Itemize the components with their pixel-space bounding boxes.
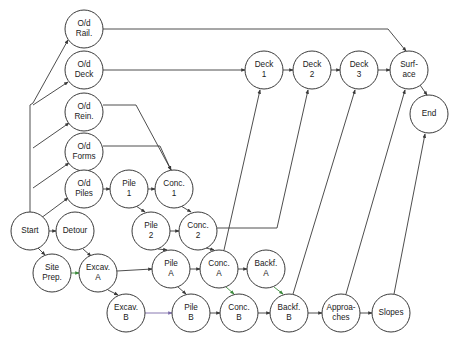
diagram-canvas: StartDetourSitePrep.O/dRail.O/dDeckO/dRe… [0, 0, 462, 342]
edge-conc2-to-deck2 [217, 90, 308, 228]
node-circle-pile2[interactable] [132, 212, 170, 250]
node-circle-odforms[interactable] [65, 133, 103, 171]
node-circle-start[interactable] [11, 212, 49, 250]
node-circle-detour[interactable] [56, 212, 94, 250]
edge-pilea-to-pileb [178, 287, 186, 294]
edge-conca-to-concb [226, 287, 234, 294]
node-excava[interactable]: Excav.A [79, 254, 117, 292]
node-odpiles[interactable]: O/dPiles [65, 170, 103, 208]
edge-conc2-to-conca [206, 248, 214, 250]
node-surface[interactable]: Surf-ace [390, 51, 428, 89]
node-circle-pile1[interactable] [110, 170, 148, 208]
node-deck1[interactable]: Deck1 [245, 51, 283, 89]
node-deck2[interactable]: Deck2 [293, 51, 331, 89]
node-conc2[interactable]: Conc.2 [179, 212, 217, 250]
node-odforms[interactable]: O/dForms [65, 133, 103, 171]
edge-odrein-to-conc1 [103, 105, 171, 170]
edge-start-to-siteprep [38, 248, 45, 255]
node-circle-backfb[interactable] [270, 294, 308, 332]
node-approaches[interactable]: Approa-ches [322, 294, 360, 332]
node-pileb[interactable]: PileB [172, 294, 210, 332]
node-deck3[interactable]: Deck3 [340, 51, 378, 89]
edge-surface-to-end [420, 85, 427, 95]
node-end[interactable]: End [410, 95, 448, 133]
node-siteprep[interactable]: SitePrep. [33, 254, 71, 292]
edge-conca-to-deck1 [224, 90, 260, 250]
node-circle-odpiles[interactable] [65, 170, 103, 208]
node-detour[interactable]: Detour [56, 212, 94, 250]
node-pile2[interactable]: Pile2 [132, 212, 170, 250]
node-odrail[interactable]: O/dRail. [65, 10, 103, 48]
edge-pile2-to-pilea [158, 249, 167, 250]
node-circle-concb[interactable] [220, 294, 258, 332]
node-conc1[interactable]: Conc.1 [155, 170, 193, 208]
node-backfb[interactable]: Backf.B [270, 294, 308, 332]
node-backfa[interactable]: Backf.A [247, 250, 285, 288]
node-circle-pileb[interactable] [172, 294, 210, 332]
node-circle-slopes[interactable] [372, 294, 410, 332]
node-circle-conca[interactable] [200, 250, 238, 288]
node-circle-deck3[interactable] [340, 51, 378, 89]
edge-excava-to-excavb [108, 290, 118, 295]
node-circle-oddeck[interactable] [65, 51, 103, 89]
edge-conc1-to-conc2 [181, 206, 191, 212]
node-concb[interactable]: Conc.B [220, 294, 258, 332]
edge-excava-to-pilea [117, 269, 152, 271]
node-circle-odrein[interactable] [65, 93, 103, 131]
node-slopes[interactable]: Slopes [372, 294, 410, 332]
node-circle-deck1[interactable] [245, 51, 283, 89]
edge-detour-to-excava [83, 249, 91, 256]
node-circle-odrail[interactable] [65, 10, 103, 48]
activity-network-graph: StartDetourSitePrep.O/dRail.O/dDeckO/dRe… [0, 0, 462, 342]
node-pilea[interactable]: PileA [152, 250, 190, 288]
edge-backfa-to-backfb [274, 287, 283, 294]
node-circle-conc1[interactable] [155, 170, 193, 208]
node-layer: StartDetourSitePrep.O/dRail.O/dDeckO/dRe… [11, 10, 448, 332]
node-start[interactable]: Start [11, 212, 49, 250]
edge-start-to-odforms [33, 163, 69, 188]
node-odrein[interactable]: O/dRein. [65, 93, 103, 131]
node-conca[interactable]: Conc.A [200, 250, 238, 288]
node-circle-end[interactable] [410, 95, 448, 133]
node-circle-pilea[interactable] [152, 250, 190, 288]
edge-pile1-to-pile2 [136, 206, 145, 212]
node-circle-backfa[interactable] [247, 250, 285, 288]
edge-odforms-to-conc1 [103, 146, 171, 170]
node-circle-siteprep[interactable] [33, 254, 71, 292]
node-circle-conc2[interactable] [179, 212, 217, 250]
node-pile1[interactable]: Pile1 [110, 170, 148, 208]
edge-approaches-to-surface [346, 90, 405, 294]
node-oddeck[interactable]: O/dDeck [65, 51, 103, 89]
edge-slopes-to-end [394, 134, 425, 294]
node-excavb[interactable]: Excav.B [107, 294, 145, 332]
node-circle-approaches[interactable] [322, 294, 360, 332]
edge-odrail-to-surface [103, 29, 406, 51]
edge-start-to-odrein [33, 123, 69, 148]
node-circle-deck2[interactable] [293, 51, 331, 89]
node-circle-excava[interactable] [79, 254, 117, 292]
node-circle-excavb[interactable] [107, 294, 145, 332]
edge-backfb-to-deck3 [293, 90, 355, 294]
node-circle-surface[interactable] [390, 51, 428, 89]
